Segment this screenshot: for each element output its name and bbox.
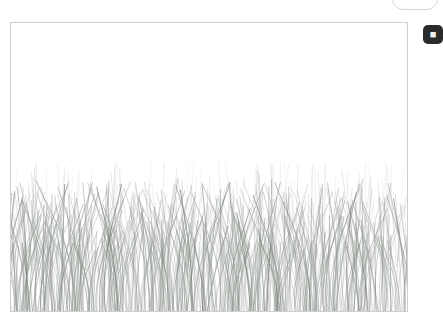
rounded-pill-control[interactable] (392, 0, 438, 10)
drawing-canvas[interactable] (10, 22, 408, 312)
side-button-glyph-icon: ■ (430, 29, 437, 40)
side-action-button[interactable]: ■ (423, 25, 443, 44)
grass-field-illustration (11, 23, 407, 311)
